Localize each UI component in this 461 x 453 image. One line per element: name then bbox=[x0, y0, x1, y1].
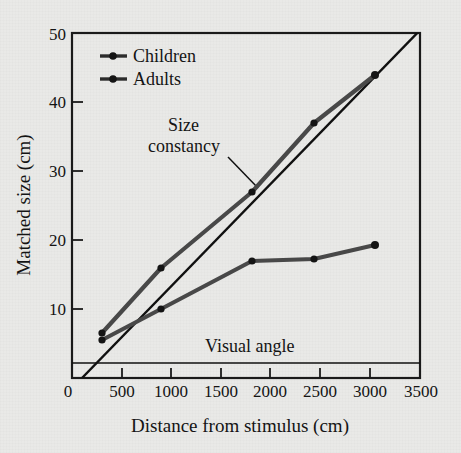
x-tick-label-3500: 3500 bbox=[404, 382, 438, 401]
legend-label-children: Children bbox=[133, 46, 196, 66]
x-axis-title: Distance from stimulus (cm) bbox=[131, 415, 349, 437]
size-constancy-label-line2: constancy bbox=[148, 136, 220, 156]
x-tick-label-2500: 2500 bbox=[303, 382, 337, 401]
data-point bbox=[98, 336, 105, 343]
size-constancy-leader-line bbox=[228, 157, 258, 188]
data-point bbox=[248, 257, 255, 264]
data-point bbox=[310, 119, 317, 126]
x-axis-tick-labels: 0 500 1000 1500 2000 2500 3000 3500 bbox=[64, 382, 438, 401]
x-tick-label-3000: 3000 bbox=[353, 382, 387, 401]
data-point bbox=[371, 71, 379, 79]
series-adults bbox=[98, 71, 379, 337]
size-constancy-label-line1: Size bbox=[168, 115, 199, 135]
y-tick-label-50: 50 bbox=[49, 25, 66, 44]
figure-container: 50 40 30 20 10 Matched size (cm) 0 500 1… bbox=[0, 0, 461, 453]
legend: Children Adults bbox=[100, 46, 196, 89]
series-adults-line bbox=[102, 75, 375, 333]
x-tick-label-1000: 1000 bbox=[154, 382, 188, 401]
visual-angle-annotation-label: Visual angle bbox=[205, 336, 294, 356]
y-axis-title: Matched size (cm) bbox=[13, 134, 35, 275]
data-point bbox=[248, 188, 255, 195]
legend-marker-dot-children bbox=[109, 52, 117, 60]
size-constancy-line-chart: 50 40 30 20 10 Matched size (cm) 0 500 1… bbox=[0, 0, 461, 453]
data-point bbox=[157, 305, 164, 312]
legend-item-adults[interactable]: Adults bbox=[100, 69, 181, 89]
y-axis-tick-labels: 50 40 30 20 10 bbox=[49, 25, 66, 319]
y-tick-label-30: 30 bbox=[49, 162, 66, 181]
y-tick-label-10: 10 bbox=[49, 300, 66, 319]
x-tick-label-1500: 1500 bbox=[204, 382, 238, 401]
data-point bbox=[98, 329, 105, 336]
data-point bbox=[371, 241, 379, 249]
legend-marker-dot-adults bbox=[109, 75, 117, 83]
legend-item-children[interactable]: Children bbox=[100, 46, 196, 66]
x-axis-ticks bbox=[122, 368, 370, 378]
y-tick-label-40: 40 bbox=[49, 93, 66, 112]
x-tick-label-0: 0 bbox=[64, 382, 73, 401]
y-axis-ticks bbox=[72, 102, 83, 309]
x-tick-label-2000: 2000 bbox=[253, 382, 287, 401]
y-tick-label-20: 20 bbox=[49, 231, 66, 250]
data-point bbox=[157, 264, 164, 271]
series-children-line bbox=[102, 245, 375, 340]
size-constancy-annotation: Size constancy bbox=[148, 115, 258, 188]
x-tick-label-500: 500 bbox=[109, 382, 135, 401]
data-point bbox=[310, 255, 317, 262]
legend-label-adults: Adults bbox=[133, 69, 181, 89]
